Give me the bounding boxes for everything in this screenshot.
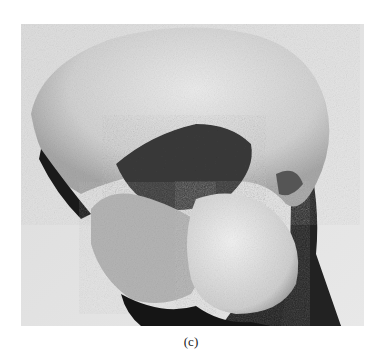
specimen-photo (21, 24, 364, 326)
specimen-illustration (21, 24, 364, 326)
figure-caption: (c) (0, 334, 382, 350)
